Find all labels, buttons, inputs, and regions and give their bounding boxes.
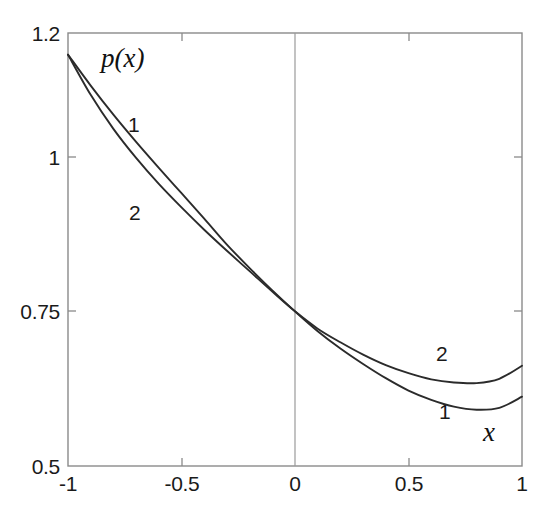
x-tick-label-neg0-5: -0.5 <box>152 472 212 496</box>
x-tick-label-0: 0 <box>265 472 325 496</box>
plot-canvas <box>0 0 545 518</box>
x-axis-title: x <box>483 417 495 448</box>
x-tick-label-neg1: -1 <box>38 472 98 496</box>
x-tick-label-1: 1 <box>492 472 545 496</box>
curve-label-1-left: 1 <box>128 113 140 137</box>
y-axis-ticks-right <box>514 157 522 311</box>
chart-figure: 1.2 1 0.75 0.5 -1 -0.5 0 0.5 1 p(x) x 1 … <box>0 0 545 518</box>
curve-label-1-right: 1 <box>439 400 451 424</box>
curve-label-2-left: 2 <box>129 201 141 225</box>
x-tick-label-0-5: 0.5 <box>379 472 439 496</box>
y-axis-ticks-left <box>68 157 76 311</box>
y-tick-label-0-75: 0.75 <box>8 300 60 324</box>
y-axis-title: p(x) <box>101 43 144 74</box>
y-tick-label-1: 1 <box>8 146 60 170</box>
y-tick-label-1-2: 1.2 <box>8 22 60 46</box>
curve-label-2-right: 2 <box>436 342 448 366</box>
